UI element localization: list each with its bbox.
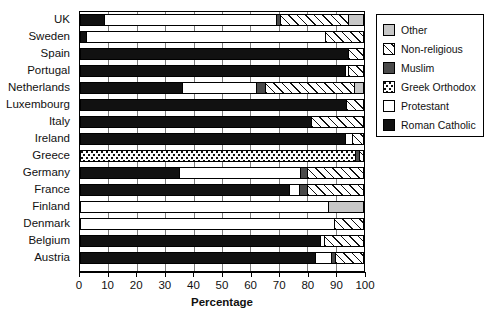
bar-segment-roman-catholic [81,66,346,76]
y-axis-label-portugal: Portugal [0,62,74,79]
stacked-bar-austria [80,252,364,264]
bar-segment-non-religious [266,83,355,93]
bar-segment-protestant [87,32,327,42]
x-tick-100 [365,272,366,277]
bar-segment-muslim [300,185,308,195]
stacked-bar-belgium [80,235,364,247]
legend-swatch-greek-orthodox [383,81,395,93]
x-tick-40 [193,272,194,277]
bar-segment-non-religious [353,134,363,144]
bar-segment-other [329,202,363,212]
bar-segment-non-religious [349,49,363,59]
legend-item-protestant[interactable]: Protestant [383,96,479,115]
bar-row [80,46,364,63]
bar-segment-roman-catholic [81,117,312,127]
y-axis-label-germany: Germany [0,164,74,181]
x-tick-90 [336,272,337,277]
bar-segment-protestant [180,168,301,178]
stacked-bar-italy [80,116,364,128]
bar-row [80,182,364,199]
bar-segment-non-religious [312,117,363,127]
legend-item-non-religious[interactable]: Non-religious [383,39,479,58]
bar-row [80,233,364,250]
bar-row [80,148,364,165]
bar-segment-protestant [316,253,332,263]
bar-row [80,250,364,267]
x-tick-label-30: 30 [158,279,171,291]
bar-row [80,131,364,148]
stacked-bar-chart: UKSwedenSpainPortugalNetherlandsLuxembou… [0,0,490,312]
bar-segment-muslim [301,168,308,178]
bar-row [80,29,364,46]
y-axis-label-france: France [0,181,74,198]
bar-segment-protestant [105,15,277,25]
bar-segment-protestant [290,185,300,195]
bar-segment-protestant [346,134,353,144]
x-tick-label-50: 50 [216,279,229,291]
bar-segment-roman-catholic [81,83,183,93]
bar-segment-non-religious [308,185,363,195]
y-axis-label-belgium: Belgium [0,232,74,249]
x-tick-label-40: 40 [187,279,200,291]
y-axis-label-italy: Italy [0,113,74,130]
x-tick-label-0: 0 [76,279,82,291]
x-tick-60 [251,272,252,277]
legend-label-roman-catholic: Roman Catholic [401,119,476,131]
bar-segment-non-religious [281,15,349,25]
x-tick-label-70: 70 [273,279,286,291]
x-tick-label-80: 80 [301,279,314,291]
bar-segment-non-religious [335,219,363,229]
bar-segment-other [349,15,363,25]
stacked-bar-netherlands [80,82,364,94]
legend-item-roman-catholic[interactable]: Roman Catholic [383,115,479,134]
y-axis-label-denmark: Denmark [0,215,74,232]
bar-segment-non-religious [336,253,363,263]
stacked-bar-greece [80,150,364,162]
stacked-bar-france [80,184,364,196]
bar-segment-non-religious [325,236,363,246]
y-axis-label-ireland: Ireland [0,130,74,147]
bar-row [80,114,364,131]
bar-segment-roman-catholic [81,100,347,110]
legend-item-other[interactable]: Other [383,20,479,39]
x-tick-70 [279,272,280,277]
bar-segment-protestant [183,83,258,93]
x-tick-10 [108,272,109,277]
bar-segment-non-religious [349,66,363,76]
bar-row [80,12,364,29]
stacked-bar-portugal [80,65,364,77]
bar-segment-non-religious [326,32,363,42]
bar-segment-roman-catholic [81,49,349,59]
x-tick-30 [165,272,166,277]
x-tick-label-90: 90 [330,279,343,291]
legend-label-muslim: Muslim [401,62,434,74]
bar-row [80,216,364,233]
bar-segment-roman-catholic [81,253,316,263]
legend-swatch-roman-catholic [383,119,395,131]
legend-item-greek-orthodox[interactable]: Greek Orthodox [383,77,479,96]
legend-label-non-religious: Non-religious [401,43,463,55]
x-tick-label-20: 20 [130,279,143,291]
bar-segment-greek-orthodox [81,151,356,161]
legend-swatch-other [383,24,395,36]
bar-segment-non-religious [360,151,363,161]
legend-item-muslim[interactable]: Muslim [383,58,479,77]
x-tick-0 [79,272,80,277]
legend-swatch-non-religious [383,43,395,55]
x-axis [79,272,365,278]
bar-segment-roman-catholic [81,15,105,25]
x-tick-label-100: 100 [355,279,374,291]
stacked-bar-finland [80,201,364,213]
bar-row [80,199,364,216]
bar-segment-roman-catholic [81,168,180,178]
legend: OtherNon-religiousMuslimGreek OrthodoxPr… [376,14,484,137]
bar-row [80,63,364,80]
legend-label-other: Other [401,24,427,36]
legend-swatch-protestant [383,100,395,112]
y-axis-label-luxembourg: Luxembourg [0,96,74,113]
stacked-bar-uk [80,14,364,26]
y-axis-label-greece: Greece [0,147,74,164]
bar-segment-non-religious [308,168,363,178]
x-tick-80 [308,272,309,277]
legend-swatch-muslim [383,62,395,74]
